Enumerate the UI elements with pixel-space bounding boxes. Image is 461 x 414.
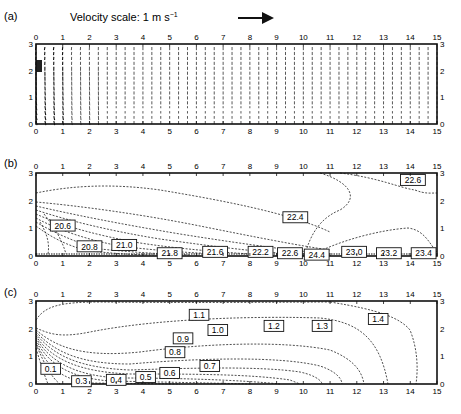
x-tick-label: 0 [34, 290, 39, 299]
panel-a-frame [36, 44, 437, 124]
svg-text:1.3: 1.3 [316, 321, 328, 331]
contour-label: 0.8 [165, 347, 185, 358]
x-tick-label: 8 [248, 387, 253, 396]
contour-lines [36, 302, 417, 384]
y-tick-label: 2 [29, 325, 34, 334]
x-tick-label: 2 [87, 127, 92, 136]
svg-text:23.2: 23.2 [381, 248, 398, 258]
x-tick-label: 7 [221, 290, 226, 299]
y-tick-label: 2 [440, 197, 445, 206]
x-tick-label: 2 [87, 162, 92, 171]
x-tick-label: 3 [114, 162, 119, 171]
contour-label: 20.8 [77, 241, 102, 252]
x-tick-label: 0 [34, 127, 39, 136]
x-tick-label: 9 [274, 33, 279, 42]
svg-text:0.5: 0.5 [140, 372, 152, 382]
x-tick-label: 0 [34, 33, 39, 42]
x-tick-label: 11 [326, 162, 335, 171]
x-tick-label: 10 [299, 259, 308, 268]
figure: (a) Velocity scale: 1 m s−1 001122334455… [0, 0, 461, 414]
y-tick-label: 3 [29, 40, 34, 49]
x-tick-label: 9 [274, 127, 279, 136]
panel-a-label: (a) [4, 10, 17, 22]
svg-text:23.4: 23.4 [415, 248, 432, 258]
svg-text:21.6: 21.6 [207, 247, 224, 257]
contour-label: 22.6 [278, 248, 303, 259]
y-tick-label: 0 [440, 252, 445, 261]
x-tick-label: 6 [194, 127, 199, 136]
x-tick-label: 13 [379, 259, 388, 268]
x-tick-label: 2 [87, 33, 92, 42]
x-tick-label: 2 [87, 290, 92, 299]
x-tick-label: 14 [406, 127, 415, 136]
x-tick-label: 7 [221, 162, 226, 171]
x-tick-label: 3 [114, 127, 119, 136]
svg-text:23.0: 23.0 [346, 247, 363, 257]
contour-label: 22.2 [248, 246, 273, 257]
x-tick-label: 4 [141, 259, 146, 268]
svg-text:0.9: 0.9 [177, 334, 189, 344]
x-tick-label: 6 [194, 290, 199, 299]
x-tick-label: 12 [352, 162, 361, 171]
contour-label: 23.4 [411, 248, 436, 259]
x-tick-label: 11 [326, 127, 335, 136]
svg-text:1.1: 1.1 [193, 310, 205, 320]
x-tick-label: 6 [194, 162, 199, 171]
x-tick-label: 8 [248, 33, 253, 42]
x-tick-label: 9 [274, 259, 279, 268]
y-tick-label: 3 [440, 297, 445, 306]
x-tick-label: 14 [406, 387, 415, 396]
contour-label: 21.0 [112, 239, 137, 250]
contour-label: 1.4 [368, 313, 388, 324]
svg-text:0.3: 0.3 [76, 376, 88, 386]
svg-text:1.4: 1.4 [372, 314, 384, 324]
x-tick-label: 10 [299, 162, 308, 171]
x-tick-label: 3 [114, 259, 119, 268]
x-tick-label: 9 [274, 387, 279, 396]
panel-c: (c) 0.10.30.40.50.60.70.80.91.01.11.21.3… [4, 286, 445, 396]
x-tick-label: 8 [248, 259, 253, 268]
svg-text:0.7: 0.7 [204, 361, 216, 371]
contour-label: 22.6 [401, 174, 426, 185]
x-tick-label: 13 [379, 162, 388, 171]
x-tick-label: 1 [61, 127, 66, 136]
x-tick-label: 5 [167, 162, 172, 171]
svg-text:0.8: 0.8 [169, 347, 181, 357]
x-tick-label: 8 [248, 162, 253, 171]
contour-label: 0.1 [41, 363, 61, 374]
x-tick-label: 13 [379, 387, 388, 396]
x-tick-label: 6 [194, 387, 199, 396]
contour-labels: 20.620.821.021.821.622.222.622.424.423.0… [50, 174, 436, 260]
contour-label: 1.2 [264, 320, 284, 331]
x-tick-label: 0 [34, 162, 39, 171]
svg-text:20.6: 20.6 [54, 221, 71, 231]
y-tick-label: 2 [440, 325, 445, 334]
x-tick-label: 13 [379, 127, 388, 136]
svg-text:1.2: 1.2 [268, 321, 280, 331]
y-tick-label: 3 [440, 169, 445, 178]
svg-text:0.1: 0.1 [45, 364, 57, 374]
contour-label: 1.3 [312, 320, 332, 331]
x-tick-label: 12 [352, 290, 361, 299]
x-tick-label: 7 [221, 33, 226, 42]
x-tick-label: 5 [167, 33, 172, 42]
x-tick-label: 11 [326, 33, 335, 42]
x-tick-label: 4 [141, 127, 146, 136]
x-tick-label: 11 [326, 290, 335, 299]
x-tick-label: 10 [299, 127, 308, 136]
x-tick-label: 12 [352, 33, 361, 42]
panel-c-label: (c) [4, 286, 17, 298]
x-tick-label: 13 [379, 290, 388, 299]
y-tick-label: 1 [440, 224, 445, 233]
x-tick-label: 6 [194, 259, 199, 268]
svg-text:22.6: 22.6 [405, 175, 422, 185]
svg-text:22.4: 22.4 [287, 212, 304, 222]
contour-label: 1.0 [208, 325, 228, 336]
x-tick-label: 14 [406, 162, 415, 171]
x-tick-label: 10 [299, 290, 308, 299]
contour-label: 23.0 [342, 246, 367, 257]
y-tick-label: 1 [29, 93, 34, 102]
y-tick-label: 1 [29, 352, 34, 361]
x-tick-label: 1 [61, 259, 66, 268]
contour-label: 0.6 [160, 367, 180, 378]
